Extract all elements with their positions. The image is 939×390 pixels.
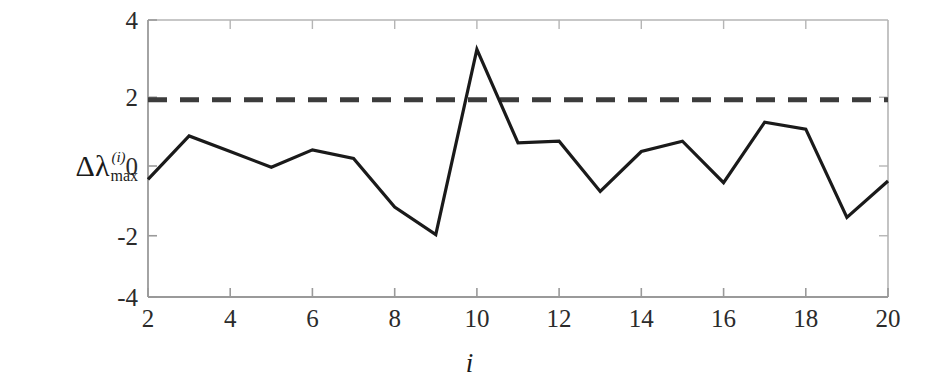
x-tick-labels: 2 4 6 8 10 12 14 16 18 20 (142, 305, 901, 332)
x-tick-label: 16 (711, 305, 736, 332)
y-tick-label: 2 (126, 84, 139, 111)
y-tick-label: 4 (126, 7, 139, 34)
y-axis-title-indices: (i)max (110, 152, 138, 183)
y-axis-title: Δλ(i)max (22, 140, 138, 192)
y-tick-label: -4 (117, 284, 138, 311)
x-tick-label: 18 (793, 305, 818, 332)
y-axis-title-superscript: (i) (111, 150, 125, 165)
x-tick-label: 12 (547, 305, 572, 332)
y-axis-title-subscript: max (110, 168, 138, 184)
x-tick-label: 10 (464, 305, 489, 332)
x-tick-label: 2 (142, 305, 155, 332)
x-tick-label: 4 (224, 305, 237, 332)
x-tick-label: 8 (388, 305, 401, 332)
x-tick-label: 14 (629, 305, 655, 332)
y-tick-label: -2 (117, 223, 138, 250)
plot-area-background (148, 20, 888, 297)
line-chart: 4 2 0 -2 -4 2 4 6 8 10 12 14 16 18 20 (0, 0, 939, 390)
x-axis-title: i (0, 348, 939, 379)
x-tick-label: 6 (306, 305, 319, 332)
y-axis-title-delta-lambda: Δλ (76, 149, 110, 183)
figure-container: 4 2 0 -2 -4 2 4 6 8 10 12 14 16 18 20 Δλ… (0, 0, 939, 390)
x-tick-label: 20 (876, 305, 901, 332)
